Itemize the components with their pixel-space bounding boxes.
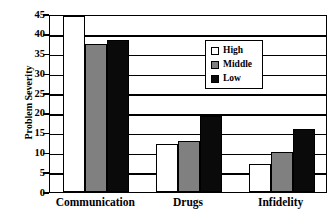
bar-infidelity-low	[293, 129, 315, 192]
plot-area	[49, 15, 327, 193]
x-axis-category-labels: CommunicationDrugsInfidelity	[49, 196, 327, 218]
bar-infidelity-middle	[271, 152, 293, 192]
bar-drugs-high	[156, 144, 178, 192]
legend-label: Middle	[223, 60, 252, 70]
legend-item-high[interactable]: High	[211, 44, 262, 58]
y-tick-label: 35	[25, 49, 45, 60]
bar-communication-middle	[85, 44, 107, 192]
x-label-drugs: Drugs	[142, 196, 235, 208]
legend-label: Low	[223, 74, 241, 84]
y-axis-tick-labels: 051015202530354045	[23, 0, 45, 223]
legend-label: High	[223, 46, 243, 56]
legend-swatch-high-icon	[211, 47, 219, 55]
y-tick-label: 10	[25, 148, 45, 159]
y-tick-label: 20	[25, 108, 45, 119]
y-tick-label: 5	[25, 168, 45, 179]
x-label-communication: Communication	[49, 196, 142, 208]
bar-infidelity-high	[249, 164, 271, 192]
bar-drugs-low	[200, 116, 222, 192]
bar-drugs-middle	[178, 141, 200, 192]
y-tick-label: 25	[25, 89, 45, 100]
bar-communication-high	[63, 16, 85, 192]
legend-swatch-middle-icon	[211, 61, 219, 69]
legend: HighMiddleLow	[205, 40, 263, 89]
y-tick-label: 40	[25, 29, 45, 40]
bar-communication-low	[107, 40, 129, 192]
legend-item-low[interactable]: Low	[211, 72, 262, 86]
y-tick-label: 15	[25, 128, 45, 139]
y-tick-label: 30	[25, 69, 45, 80]
legend-item-middle[interactable]: Middle	[211, 58, 262, 72]
bars-layer	[50, 16, 326, 192]
legend-swatch-low-icon	[211, 75, 219, 83]
bar-chart: Problem Severity 051015202530354045 High…	[0, 0, 334, 223]
y-tick-label: 0	[25, 188, 45, 199]
x-label-infidelity: Infidelity	[234, 196, 327, 208]
y-tick-label: 45	[25, 10, 45, 21]
